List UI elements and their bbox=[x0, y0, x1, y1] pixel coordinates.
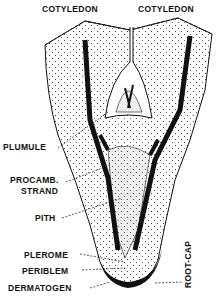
label-plumule: PLUMULE bbox=[3, 143, 46, 152]
label-procamb-strand-line2: STRAND bbox=[21, 187, 58, 196]
label-plerome: PLEROME bbox=[24, 251, 68, 260]
label-cotyledon-left: COTYLEDON bbox=[42, 5, 98, 14]
label-pith: PITH bbox=[35, 214, 56, 223]
label-dermatogen: DERMATOGEN bbox=[8, 284, 72, 293]
label-cotyledon-right: COTYLEDON bbox=[138, 5, 194, 14]
label-procamb-strand-line1: PROCAMB. bbox=[10, 176, 59, 185]
label-root-cap: ROOT-CAP bbox=[184, 241, 193, 288]
label-periblem: PERIBLEM bbox=[22, 267, 68, 276]
